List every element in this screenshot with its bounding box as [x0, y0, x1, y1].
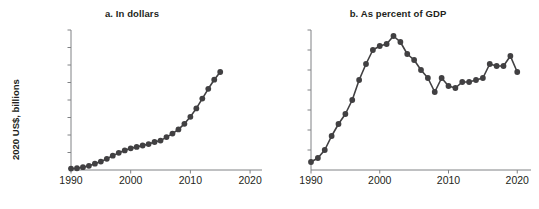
data-point-marker — [308, 159, 314, 165]
data-point-marker — [322, 147, 328, 153]
data-point-marker — [342, 111, 348, 117]
x-tick-label: 2010 — [437, 174, 460, 186]
data-point-marker — [384, 41, 390, 47]
data-point-marker — [377, 43, 383, 49]
data-point-marker — [432, 89, 438, 95]
data-point-marker — [411, 57, 417, 63]
data-point-marker — [329, 133, 335, 139]
data-point-marker — [418, 67, 424, 73]
figure-root: a. In dollars 2020 US$, billions 0250500… — [0, 0, 539, 209]
data-point-marker — [507, 53, 513, 59]
data-point-marker — [473, 77, 479, 83]
data-point-marker — [370, 47, 376, 53]
data-point-marker — [514, 69, 520, 75]
data-point-marker — [336, 121, 342, 127]
data-point-marker — [356, 77, 362, 83]
data-point-marker — [425, 75, 431, 81]
data-point-marker — [391, 33, 397, 39]
data-point-marker — [466, 79, 472, 85]
data-point-marker — [315, 155, 321, 161]
panel-b-series-line — [311, 36, 517, 162]
data-point-marker — [459, 79, 465, 85]
data-point-marker — [446, 83, 452, 89]
chart-panel-b: b. As percent of GDP Percent of GDP 0123… — [270, 0, 539, 209]
x-tick-label: 2000 — [368, 174, 391, 186]
data-point-marker — [487, 61, 493, 67]
data-point-marker — [480, 75, 486, 81]
data-point-marker — [439, 75, 445, 81]
x-tick-label: 2020 — [506, 174, 529, 186]
data-point-marker — [349, 97, 355, 103]
x-tick-label: 1990 — [299, 174, 322, 186]
data-point-marker — [501, 63, 507, 69]
data-point-marker — [494, 63, 500, 69]
data-point-marker — [404, 51, 410, 57]
data-point-marker — [363, 61, 369, 67]
data-point-marker — [397, 39, 403, 45]
data-point-marker — [452, 85, 458, 91]
